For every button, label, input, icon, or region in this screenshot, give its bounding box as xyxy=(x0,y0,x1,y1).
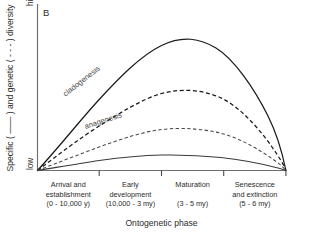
x-tick-label-phase-3-duration: (3 - 5 my) xyxy=(177,199,208,208)
x-tick-label-phase-2-duration: (10,000 - 3 my) xyxy=(106,199,155,208)
chart-svg: cladogenesis anagenesis B high low Speci… xyxy=(0,0,310,235)
x-tick-label-phase-1-line2: establishment xyxy=(46,190,91,199)
panel-label-b: B xyxy=(43,7,49,18)
x-tick-label-phase-2-line2: development xyxy=(110,190,152,199)
x-tick-label-phase-4-duration: (5 - 6 my) xyxy=(239,199,270,208)
x-tick-label-phase-4-line1: Senescence xyxy=(235,180,275,189)
x-tick-label-phase-4-line2: and extinction xyxy=(232,190,277,199)
curve-cladogenesis-genetic xyxy=(38,90,286,170)
x-tick-label-phase-3-line1: Maturation xyxy=(175,180,209,189)
curve-label-cladogenesis: cladogenesis xyxy=(61,64,102,99)
curve-cladogenesis-specific xyxy=(38,39,286,170)
x-tick-label-phase-1-duration: (0 - 10,000 y) xyxy=(47,199,90,208)
x-axis-title: Ontogenetic phase xyxy=(125,218,197,228)
x-tick-label-phase-2-line1: Early xyxy=(122,180,139,189)
figure-container: cladogenesis anagenesis B high low Speci… xyxy=(0,0,310,235)
y-axis-low-label: low xyxy=(26,158,35,170)
x-tick-label-phase-1-line1: Arrival and xyxy=(51,180,86,189)
curve-anagenesis-specific xyxy=(38,155,286,171)
y-axis-title: Specific ( —— ) and genetic ( - - - ) di… xyxy=(5,4,15,172)
curve-label-anagenesis: anagenesis xyxy=(83,110,123,131)
y-axis-high-label: high xyxy=(26,0,35,6)
